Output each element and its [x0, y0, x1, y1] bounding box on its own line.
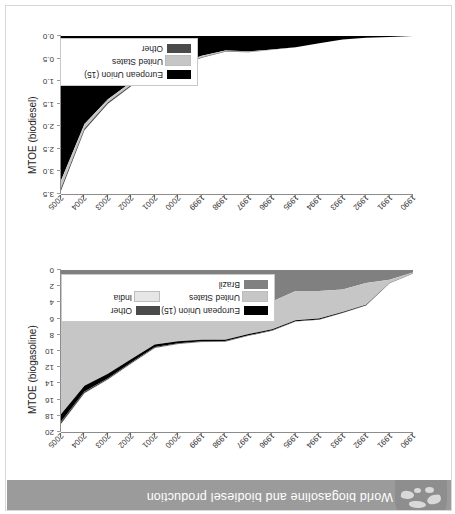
legend-swatch: [242, 291, 268, 302]
x-tick-label: 1997: [234, 431, 253, 450]
x-tick-label: 1994: [305, 193, 324, 212]
x-tick-label: 1996: [258, 431, 277, 450]
legend-label: United States: [112, 56, 163, 67]
legend: European Union (15)United StatesOther: [60, 38, 198, 86]
x-tick-label: 2003: [93, 193, 112, 212]
legend-label: United States: [189, 292, 240, 303]
y-tick-label: 0: [50, 266, 54, 275]
y-tick-label: 0.5: [43, 55, 54, 64]
x-tick-label: 2003: [93, 431, 112, 450]
x-tick-label: 1993: [328, 193, 347, 212]
y-tick-mark: [57, 399, 61, 400]
x-tick-label: 2000: [164, 431, 183, 450]
y-axis-label-biodiesel: MTOE (biodiesel): [27, 96, 38, 174]
globe-icon: [395, 480, 447, 510]
y-tick-label: 4: [50, 298, 54, 307]
legend-label: Brazil: [219, 279, 240, 290]
x-tick-label: 1990: [398, 193, 417, 212]
x-tick-label: 1993: [328, 431, 347, 450]
x-tick-label: 2001: [140, 193, 159, 212]
x-tick-label: 2001: [140, 431, 159, 450]
y-tick-mark: [57, 35, 61, 36]
x-tick-label: 1990: [398, 431, 417, 450]
title-banner: World biogasoline and biodiesel producti…: [7, 480, 451, 510]
figure-root: World biogasoline and biodiesel producti…: [0, 0, 455, 514]
x-tick-label: 1991: [375, 431, 394, 450]
y-tick-label: 18: [45, 412, 54, 421]
x-tick-label: 1999: [187, 431, 206, 450]
legend-swatch: [244, 280, 268, 289]
y-tick-mark: [57, 148, 61, 149]
y-tick-label: 12: [45, 363, 54, 372]
legend-swatch: [167, 44, 191, 53]
y-tick-label: 2: [50, 282, 54, 291]
y-tick-mark: [57, 415, 61, 416]
legend: European Union (15)United StatesBrazilOt…: [61, 274, 275, 322]
y-tick-label: 1.5: [43, 100, 54, 109]
x-tick-label: 1995: [281, 431, 300, 450]
x-tick-label: 1995: [281, 193, 300, 212]
legend-swatch: [244, 306, 268, 315]
y-axis-label-biogasoline: MTOE (biogasoline): [27, 325, 38, 414]
x-tick-label: 1992: [351, 431, 370, 450]
y-tick-label: 16: [45, 396, 54, 405]
y-tick-label: 14: [45, 379, 54, 388]
legend-label: European Union (15): [84, 69, 163, 80]
y-tick-label: 0.0: [43, 32, 54, 41]
y-tick-mark: [57, 103, 61, 104]
x-tick-label: 2002: [117, 431, 136, 450]
y-tick-label: 3.0: [43, 167, 54, 176]
y-tick-label: 1.0: [43, 77, 54, 86]
x-tick-label: 1994: [305, 431, 324, 450]
legend-label: European Union (15): [161, 305, 240, 316]
y-tick-mark: [57, 125, 61, 126]
x-tick-label: 2000: [164, 193, 183, 212]
legend-swatch: [136, 306, 160, 315]
x-tick-label: 2004: [70, 431, 89, 450]
x-tick-label: 1998: [211, 193, 230, 212]
chart-biogasoline: MTOE (biogasoline) 024681012141618201990…: [7, 238, 451, 474]
y-tick-mark: [57, 170, 61, 171]
y-tick-mark: [57, 269, 61, 270]
x-tick-label: 1992: [351, 193, 370, 212]
y-tick-mark: [57, 334, 61, 335]
y-tick-mark: [57, 382, 61, 383]
y-tick-label: 10: [45, 347, 54, 356]
x-tick-label: 2004: [70, 193, 89, 212]
legend-label: India: [114, 292, 132, 303]
legend-swatch: [165, 55, 191, 66]
x-tick-label: 1999: [187, 193, 206, 212]
x-tick-label: 1997: [234, 193, 253, 212]
y-tick-label: 6: [50, 315, 54, 324]
legend-label: Other: [142, 43, 163, 54]
y-tick-label: 8: [50, 331, 54, 340]
y-tick-label: 3.5: [43, 190, 54, 199]
legend-swatch: [134, 291, 160, 302]
y-tick-label: 2.5: [43, 145, 54, 154]
chart-biodiesel: MTOE (biodiesel) 0.00.51.01.52.02.53.03.…: [7, 4, 451, 236]
y-tick-label: 2.0: [43, 122, 54, 131]
page-title: World biogasoline and biodiesel producti…: [13, 490, 393, 504]
x-tick-label: 1991: [375, 193, 394, 212]
legend-swatch: [167, 70, 191, 79]
x-tick-label: 2002: [117, 193, 136, 212]
x-tick-label: 1996: [258, 193, 277, 212]
y-tick-mark: [57, 350, 61, 351]
y-tick-mark: [57, 366, 61, 367]
legend-label: Other: [111, 305, 132, 316]
x-tick-label: 1998: [211, 431, 230, 450]
